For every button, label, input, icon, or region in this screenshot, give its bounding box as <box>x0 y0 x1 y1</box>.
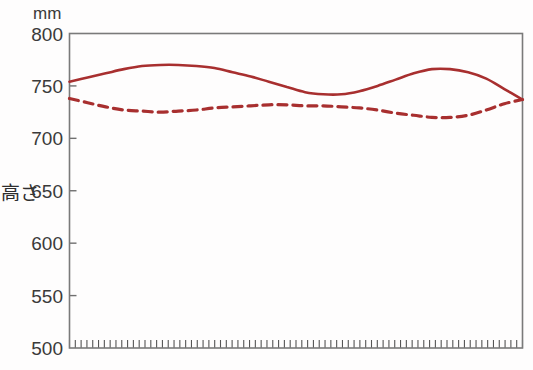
y-axis-tick-label: 500 <box>31 338 63 359</box>
y-axis-tick-label: 750 <box>31 76 63 97</box>
y-axis-tick-label: 800 <box>31 24 63 45</box>
line-chart: mm 高さ 500550600650700750800 <box>0 0 533 370</box>
y-axis-tick-label: 650 <box>31 181 63 202</box>
chart-container: mm 高さ 500550600650700750800 <box>0 0 533 370</box>
y-axis-tick-label: 700 <box>31 128 63 149</box>
y-axis-unit-label: mm <box>33 4 61 23</box>
chart-background <box>0 0 533 370</box>
y-axis-tick-label: 600 <box>31 233 63 254</box>
y-axis-tick-label: 550 <box>31 286 63 307</box>
